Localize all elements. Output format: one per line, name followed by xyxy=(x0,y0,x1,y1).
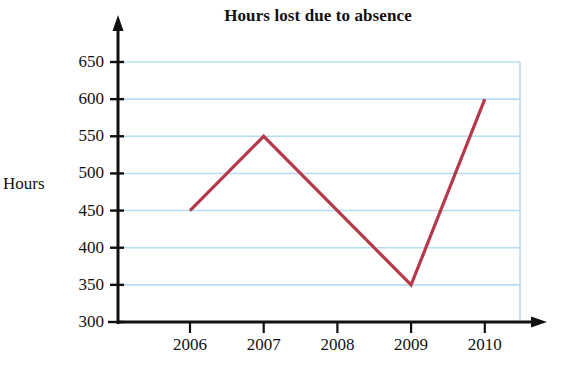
y-axis-tick-label: 450 xyxy=(46,202,104,219)
y-axis-ticks xyxy=(108,62,124,322)
x-axis-arrow-icon xyxy=(531,317,547,328)
y-axis-tick-label: 400 xyxy=(46,239,104,256)
y-axis-tick-label: 550 xyxy=(46,127,104,144)
x-axis-tick-label: 2006 xyxy=(160,336,220,353)
x-axis-tick-label: 2009 xyxy=(381,336,441,353)
y-axis-tick-label: 300 xyxy=(46,313,104,330)
x-axis-ticks xyxy=(190,322,485,333)
y-axis-tick-label: 350 xyxy=(46,276,104,293)
y-axis-tick-label: 650 xyxy=(46,53,104,70)
x-axis-tick-label: 2007 xyxy=(234,336,294,353)
x-axis-tick-label: 2008 xyxy=(307,336,367,353)
x-axis-tick-label: 2010 xyxy=(455,336,515,353)
data-series-line xyxy=(190,99,485,285)
y-axis-tick-label: 500 xyxy=(46,164,104,181)
y-axis-tick-label: 600 xyxy=(46,90,104,107)
chart-figure: Hours lost due to absence Hours 30035040… xyxy=(0,0,563,365)
gridlines xyxy=(122,62,520,285)
y-axis-arrow-icon xyxy=(113,15,124,31)
